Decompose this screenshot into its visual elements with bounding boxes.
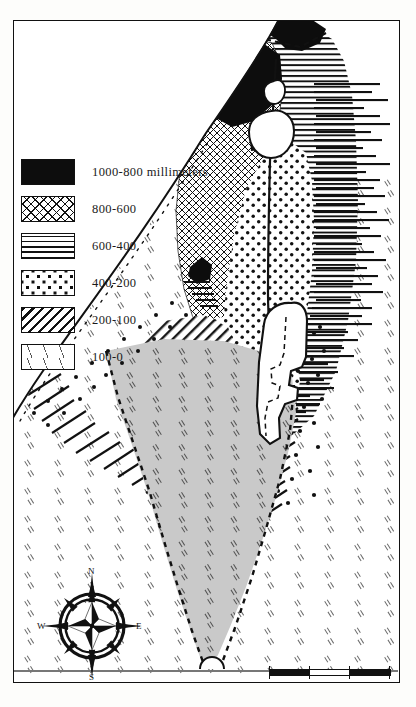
compass-label-east: E <box>136 621 142 631</box>
legend-item-1000-800: 1000-800 millimeters <box>21 156 221 188</box>
legend-item-200-100: 200-100 <box>21 304 221 336</box>
scale-bar-track <box>269 669 391 676</box>
scale-number-30: 30 <box>384 680 394 683</box>
legend-label-200-100: 200-100 <box>92 313 136 328</box>
legend-swatch-800-600 <box>21 196 75 222</box>
legend-label-400-200: 400-200 <box>92 276 136 291</box>
legend-swatch-200-100 <box>21 307 75 333</box>
compass-label-south: S <box>89 672 94 682</box>
compass-rose: N E S W <box>38 567 146 683</box>
legend-swatch-600-400 <box>21 233 75 259</box>
legend-item-800-600: 800-600 <box>21 193 221 225</box>
scale-segment-0-10 <box>270 670 310 675</box>
legend-label-600-400: 600-400 <box>92 239 136 254</box>
legend-label-800-600: 800-600 <box>92 202 136 217</box>
scale-tick-30 <box>389 666 390 679</box>
legend: 1000-800 millimeters 800-600 600-400 400… <box>21 156 221 378</box>
compass-label-west: W <box>37 621 46 631</box>
scale-tick-10 <box>309 666 310 679</box>
legend-item-400-200: 400-200 <box>21 267 221 299</box>
legend-item-100-0: 100-0 <box>21 341 221 373</box>
legend-swatch-100-0 <box>21 344 75 370</box>
map-frame: 1000-800 millimeters 800-600 600-400 400… <box>13 20 400 683</box>
scale-number-0: 0 <box>267 680 272 683</box>
map-page: 1000-800 millimeters 800-600 600-400 400… <box>0 0 416 707</box>
compass-rose-icon <box>38 567 146 683</box>
legend-label-100-0: 100-0 <box>92 350 123 365</box>
legend-label-1000-800: 1000-800 millimeters <box>92 165 208 180</box>
scale-number-10: 10 <box>304 680 314 683</box>
scale-number-20: 20 <box>344 680 354 683</box>
scale-tick-0 <box>269 666 270 679</box>
scale-tick-20 <box>349 666 350 679</box>
legend-swatch-400-200 <box>21 270 75 296</box>
scale-segment-10-20 <box>310 670 350 675</box>
compass-label-north: N <box>88 566 95 576</box>
legend-swatch-1000-800 <box>21 159 75 185</box>
scale-bar: 0 10 20 30 MILES <box>269 669 400 683</box>
scale-segment-20-30 <box>350 670 390 675</box>
legend-item-600-400: 600-400 <box>21 230 221 262</box>
